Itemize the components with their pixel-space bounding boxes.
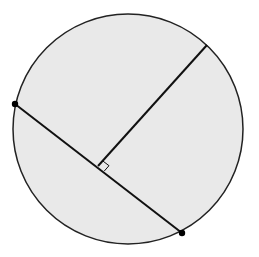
chord-endpoint-left-dot — [12, 101, 18, 107]
circle-chord-diagram — [0, 0, 259, 257]
chord-endpoint-right-dot — [179, 230, 185, 236]
